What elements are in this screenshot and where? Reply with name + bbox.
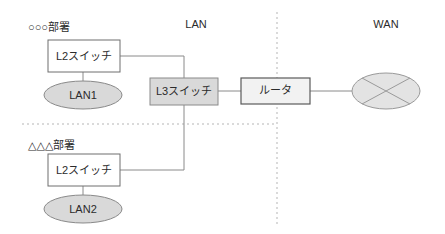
network-diagram: LAN WAN ○○○部署 △△△部署 L2スイッチ LAN1 L2スイッチ L… — [0, 0, 445, 234]
link-l3-to-l2-lower — [120, 105, 184, 170]
node-l2-switch-lower[interactable]: L2スイッチ — [48, 154, 120, 186]
router-label: ルータ — [259, 84, 292, 96]
node-l3-switch[interactable]: L3スイッチ — [150, 78, 218, 105]
node-wan-cloud[interactable] — [352, 73, 420, 109]
zone-label-lan: LAN — [185, 18, 206, 30]
l3-switch-label: L3スイッチ — [156, 85, 212, 97]
diagram-canvas: LAN WAN ○○○部署 △△△部署 L2スイッチ LAN1 L2スイッチ L… — [0, 0, 445, 234]
node-lan1[interactable]: LAN1 — [44, 81, 122, 109]
zone-label-wan: WAN — [373, 18, 398, 30]
l2-switch-lower-label: L2スイッチ — [56, 164, 112, 176]
lan2-label: LAN2 — [69, 203, 97, 215]
group-label-dept-lower: △△△部署 — [28, 138, 75, 151]
node-l2-switch-upper[interactable]: L2スイッチ — [48, 40, 120, 72]
node-router[interactable]: ルータ — [241, 78, 310, 104]
link-l2-upper-to-l3 — [120, 56, 184, 78]
group-label-dept-upper: ○○○部署 — [28, 20, 70, 33]
lan1-label: LAN1 — [69, 89, 97, 101]
node-lan2[interactable]: LAN2 — [44, 195, 122, 223]
l2-switch-upper-label: L2スイッチ — [56, 50, 112, 62]
